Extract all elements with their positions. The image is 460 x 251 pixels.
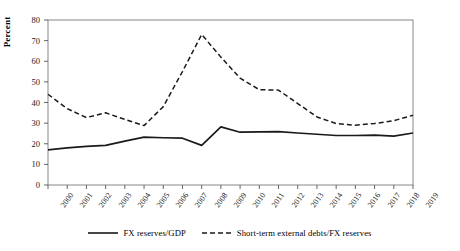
legend-item-fx-reserves-gdp[interactable]: FX reserves/GDP [88, 228, 185, 238]
solid-line-swatch-icon [88, 229, 118, 237]
axes [44, 20, 413, 189]
data-series [48, 34, 413, 150]
chart-legend: FX reserves/GDP Short-term external debt… [0, 228, 460, 238]
series-line-short-term-external-debts-fx-reserves [48, 34, 413, 125]
legend-item-short-term-debts-fx-reserves[interactable]: Short-term external debts/FX reserves [202, 228, 372, 238]
plot-area [0, 0, 460, 251]
legend-item-label: Short-term external debts/FX reserves [237, 228, 372, 238]
chart-figure: Percent 01020304050607080 20002001200220… [0, 0, 460, 251]
legend-item-label: FX reserves/GDP [123, 228, 185, 238]
dashed-line-swatch-icon [202, 229, 232, 237]
series-line-fx-reserves-gdp [48, 127, 413, 150]
